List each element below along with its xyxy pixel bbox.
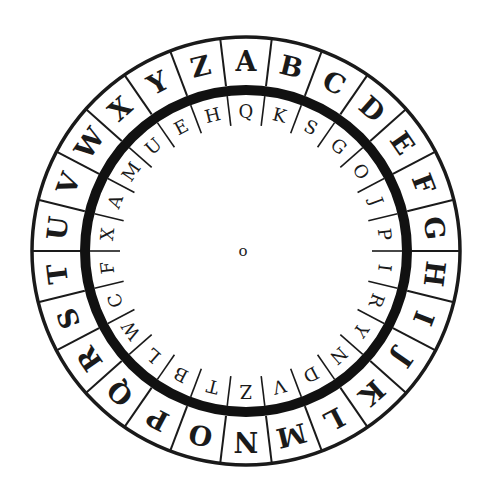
outer-letter: G: [418, 215, 452, 242]
outer-divider: [220, 416, 226, 464]
outer-divider: [220, 39, 226, 87]
inner-letter: X: [96, 226, 118, 241]
outer-letter: H: [418, 259, 452, 288]
outer-letter: Z: [187, 49, 214, 84]
inner-letter: M: [117, 158, 145, 185]
outer-letter: A: [235, 46, 258, 77]
inner-letter: P: [374, 227, 396, 242]
inner-letter: T: [204, 375, 221, 398]
inner-letter: D: [300, 362, 323, 387]
inner-letter: H: [202, 103, 222, 127]
outer-letter: X: [102, 90, 138, 127]
outer-letter: I: [407, 307, 440, 330]
outer-letter: E: [384, 126, 421, 161]
inner-divider: [358, 179, 385, 193]
outer-divider: [38, 291, 85, 302]
outer-letter: R: [70, 340, 109, 377]
inner-letter: C: [103, 290, 128, 310]
outer-letter: T: [41, 262, 74, 286]
cipher-wheel: ABCDEFGHIJKLMNOPQRSTUVWXYZ QKSGOJPIRYNDV…: [0, 0, 486, 495]
outer-letter: J: [386, 343, 420, 373]
inner-divider: [95, 281, 124, 288]
inner-divider: [227, 96, 231, 126]
outer-divider: [266, 416, 272, 464]
inner-divider: [227, 376, 231, 406]
inner-letter: I: [374, 263, 396, 273]
outer-letter: K: [352, 374, 391, 414]
outer-letter: V: [50, 167, 87, 199]
outer-letter: C: [318, 64, 351, 101]
inner-divider: [368, 281, 397, 288]
outer-letter: O: [185, 418, 215, 454]
inner-letter: N: [326, 343, 352, 369]
outer-divider: [393, 328, 436, 350]
inner-letter: F: [96, 260, 118, 275]
inner-letter: U: [141, 133, 166, 159]
inner-divider: [368, 214, 397, 221]
outer-letter: Y: [141, 64, 174, 101]
outer-letter: B: [277, 49, 307, 85]
outer-divider: [407, 200, 454, 211]
inner-letter: J: [365, 192, 388, 208]
inner-letter: B: [170, 363, 191, 388]
inner-letter: S: [301, 115, 322, 139]
inner-divider: [291, 105, 302, 133]
outer-letter: N: [234, 426, 259, 457]
inner-divider: [291, 369, 302, 397]
outer-letter: D: [353, 89, 391, 128]
outer-letter: S: [50, 304, 86, 333]
outer-letter: P: [142, 401, 174, 438]
outer-letter: F: [406, 169, 442, 198]
inner-divider: [191, 105, 202, 133]
outer-divider: [170, 51, 187, 96]
outer-letter: Q: [101, 374, 139, 413]
outer-letter: L: [319, 401, 350, 437]
outer-letter: U: [41, 215, 75, 242]
inner-divider: [95, 214, 124, 221]
inner-letter: E: [170, 115, 191, 140]
center-pivot-mark: o: [238, 242, 247, 260]
outer-letter: W: [68, 121, 112, 165]
inner-divider: [358, 310, 385, 324]
outer-letter: M: [273, 417, 309, 454]
inner-letter: W: [117, 317, 145, 345]
inner-letter: K: [270, 103, 289, 127]
outer-divider: [266, 39, 272, 87]
inner-letter: Y: [349, 319, 374, 342]
inner-letter: O: [348, 159, 374, 183]
inner-letter: R: [365, 291, 390, 312]
inner-letter: Z: [240, 381, 253, 402]
inner-letter: V: [270, 375, 290, 399]
inner-divider: [191, 369, 202, 397]
inner-letter: L: [142, 344, 165, 368]
outer-divider: [407, 291, 454, 302]
inner-divider: [261, 96, 265, 126]
inner-letter: A: [103, 191, 128, 212]
outer-divider: [38, 200, 85, 211]
inner-divider: [261, 376, 265, 406]
inner-letter: Q: [239, 101, 254, 122]
inner-letter: G: [326, 134, 351, 159]
